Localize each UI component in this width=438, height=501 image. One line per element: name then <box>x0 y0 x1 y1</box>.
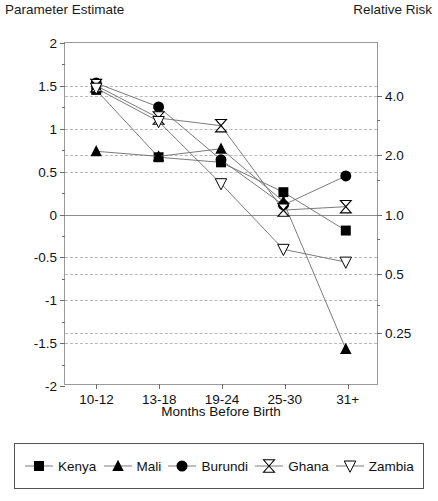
y-axis-left-tick-label: 1.5 <box>38 78 57 93</box>
y-axis-left-tick-label: 0 <box>49 207 57 222</box>
y-axis-left-tick-label: -0.5 <box>34 250 57 265</box>
x-axis-tick <box>159 384 160 389</box>
legend-item-zambia[interactable]: Zambia <box>335 457 414 475</box>
x-axis-tick <box>348 384 349 389</box>
legend-item-burundi[interactable]: Burundi <box>167 457 248 475</box>
y-axis-right-tick <box>377 96 382 97</box>
y-axis-right-tick <box>377 215 382 216</box>
y-axis-right-tick-label: 1.0 <box>385 207 404 222</box>
y-axis-left-tick-label: 2 <box>49 36 57 51</box>
y-axis-left-tick-label: -1.5 <box>34 336 57 351</box>
x-axis-tick <box>96 384 97 389</box>
y-axis-left-tick-label: -2 <box>45 379 57 394</box>
y-axis-left-tick <box>60 386 65 387</box>
hourglass-icon <box>254 457 284 475</box>
plot-area: 21.510.50-0.5-1-1.5-2 4.02.01.00.50.25 1… <box>64 42 378 385</box>
chart-figure: Parameter Estimate Relative Risk 21.510.… <box>0 0 438 501</box>
legend-label: Kenya <box>58 459 96 474</box>
y-axis-right-minor-tick <box>377 305 380 306</box>
y-axis-right-minor-tick <box>377 239 380 240</box>
y-axis-right-tick-label: 0.25 <box>385 326 411 341</box>
legend-label: Zambia <box>369 459 414 474</box>
series-zambia <box>90 83 351 268</box>
y-axis-left-tick-label: 0.5 <box>38 164 57 179</box>
y-axis-right-minor-tick <box>377 180 380 181</box>
legend-label: Ghana <box>288 459 329 474</box>
x-axis-title: Months Before Birth <box>64 404 378 419</box>
legend-label: Burundi <box>201 459 248 474</box>
y-axis-right-tick-label: 2.0 <box>385 148 404 163</box>
y-axis-right-tick <box>377 333 382 334</box>
filled-square-icon <box>24 457 54 475</box>
legend-label: Mali <box>137 459 162 474</box>
series-layer <box>65 43 377 384</box>
right-axis-title: Relative Risk <box>353 2 432 17</box>
filled-triangle-up-icon <box>103 457 133 475</box>
filled-circle-icon <box>167 457 197 475</box>
legend-item-ghana[interactable]: Ghana <box>254 457 329 475</box>
y-axis-left-tick-label: 1 <box>49 121 57 136</box>
legend-item-kenya[interactable]: Kenya <box>24 457 96 475</box>
x-axis-tick <box>285 384 286 389</box>
left-axis-title: Parameter Estimate <box>5 2 124 17</box>
open-triangle-down-icon <box>335 457 365 475</box>
x-axis-tick <box>222 384 223 389</box>
series-mali <box>90 142 351 354</box>
y-axis-right-tick-label: 4.0 <box>385 88 404 103</box>
y-axis-right-tick <box>377 274 382 275</box>
legend-item-mali[interactable]: Mali <box>103 457 162 475</box>
y-axis-left-tick-label: -1 <box>45 293 57 308</box>
y-axis-right-minor-tick <box>377 120 380 121</box>
y-axis-right-tick <box>377 155 382 156</box>
chart-legend: KenyaMaliBurundiGhanaZambia <box>14 443 424 489</box>
y-axis-right-tick-label: 0.5 <box>385 266 404 281</box>
